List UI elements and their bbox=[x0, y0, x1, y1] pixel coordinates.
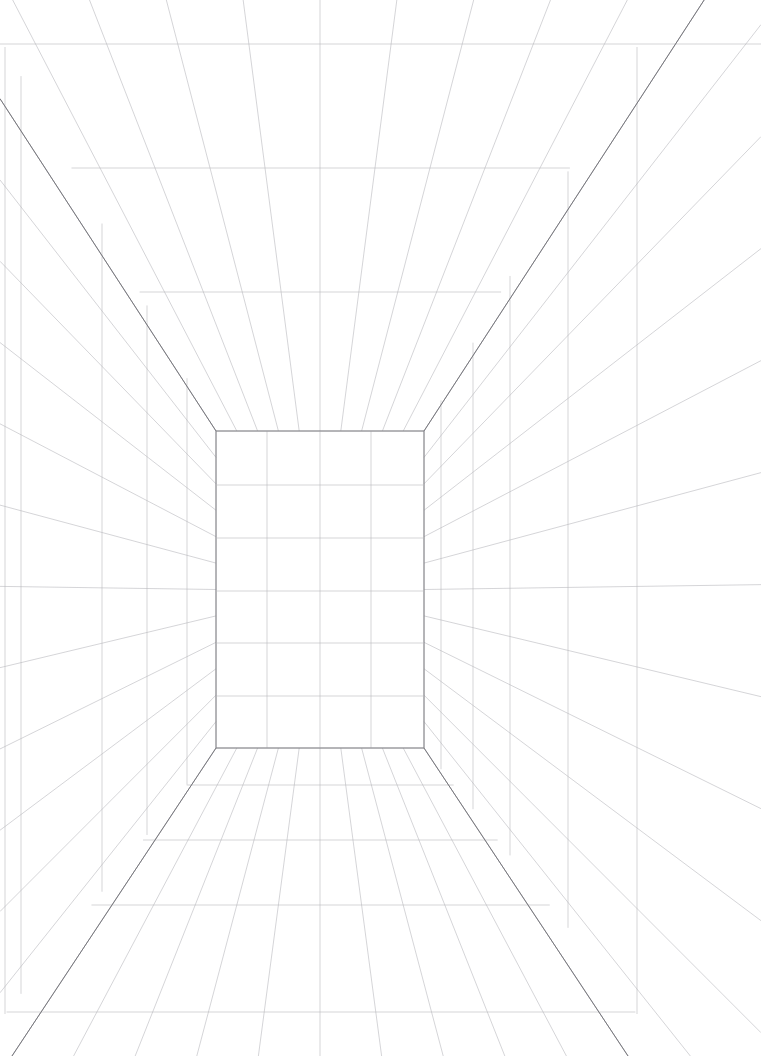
perspective-room-drawing bbox=[0, 0, 761, 1056]
canvas-background bbox=[0, 0, 761, 1056]
